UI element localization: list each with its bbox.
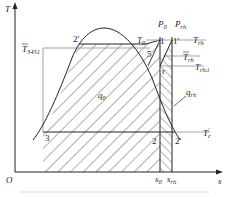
qrh-hatched-area — [160, 40, 172, 172]
faint-caption — [20, 191, 210, 193]
qrh-label: qrh — [186, 87, 196, 98]
t3451-label: T3451 — [22, 44, 40, 55]
t-s-diagram: T s O 2' 5 1 1' r 3 2 2' P0 Prh T0 Trh T… — [0, 0, 231, 197]
p0-label: P0 — [157, 19, 168, 30]
point-4-label: 2' — [73, 34, 80, 44]
point-5-label: 5 — [147, 49, 152, 59]
point-2-label: 2 — [152, 136, 157, 146]
qrh-leader — [174, 96, 186, 106]
prh-label: Prh — [174, 19, 186, 30]
t0-label: T0 — [137, 35, 146, 46]
y-axis-label: T — [5, 4, 11, 14]
y-axis-arrow-icon — [13, 2, 18, 9]
s0-label: s0 — [155, 174, 163, 185]
tc-label: Tc' — [203, 126, 211, 139]
x-axis-arrow-icon — [216, 170, 223, 175]
point-1-label: 1 — [160, 36, 165, 46]
point-3-label: 3 — [45, 133, 50, 143]
point-1r-label: r — [162, 66, 165, 76]
srh-label: srh — [167, 174, 176, 185]
trh-mean-label: Trh — [183, 52, 194, 63]
trh-label: Trh — [193, 35, 204, 46]
point-2p-label: 2' — [175, 136, 182, 146]
x-axis-label: s — [218, 176, 222, 186]
trhi-label: Trh.i — [195, 62, 209, 73]
origin-label: O — [6, 175, 13, 185]
point-1p-label: 1' — [173, 36, 180, 46]
